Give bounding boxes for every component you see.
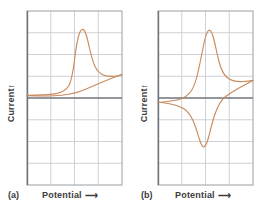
panel-b: Current↑ Potential ⟶ (b) [133, 0, 266, 215]
plot-area-a [0, 0, 133, 215]
x-axis-label-a: Potential ⟶ [42, 190, 98, 200]
panel-caption-b: (b) [141, 190, 153, 200]
panel-a: Current↑ Potential ⟶ (a) [0, 0, 133, 215]
cyclic-voltammogram-figure: Current↑ Potential ⟶ (a) [0, 0, 267, 215]
x-axis-arrow-b: ⟶ [218, 190, 231, 200]
x-axis-label-b: Potential ⟶ [175, 190, 231, 200]
x-axis-label-text-a: Potential [42, 190, 82, 200]
plot-area-b [133, 0, 266, 215]
x-axis-arrow-a: ⟶ [85, 190, 98, 200]
panel-caption-a: (a) [8, 190, 19, 200]
x-axis-label-text-b: Potential [175, 190, 215, 200]
